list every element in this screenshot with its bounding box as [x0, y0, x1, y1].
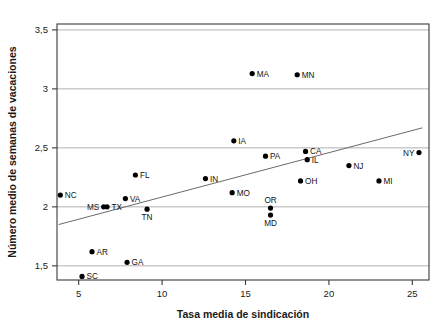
point-label-MI: MI [383, 177, 392, 186]
point-marker-MD [268, 213, 273, 218]
axis-frame-group [57, 24, 429, 280]
point-label-NY: NY [403, 149, 415, 158]
point-label-MS: MS [87, 203, 100, 212]
data-point-OH: OH [298, 177, 317, 186]
xtick-label-15: 15 [240, 288, 251, 299]
point-label-VA: VA [130, 195, 141, 204]
data-points-group: NCMSTXVAFLTNARSCGAINMOIAMAPAORMDMNOHCAIL… [58, 70, 422, 282]
point-marker-NJ [346, 163, 351, 168]
point-marker-NC [58, 192, 63, 197]
data-point-IA: IA [231, 137, 246, 146]
y-axis-title: Número medio de semanas de vacaciones [6, 46, 18, 257]
data-point-AR: AR [89, 248, 108, 257]
data-point-IN: IN [203, 175, 218, 184]
point-marker-OR [268, 205, 273, 210]
chart-canvas: NCMSTXVAFLTNARSCGAINMOIAMAPAORMDMNOHCAIL… [0, 0, 438, 325]
point-marker-MO [230, 190, 235, 195]
point-label-MA: MA [257, 70, 270, 79]
point-marker-MN [295, 72, 300, 77]
point-label-PA: PA [270, 152, 281, 161]
point-label-NC: NC [65, 191, 77, 200]
point-marker-VA [123, 196, 128, 201]
scatter-plot-figure: NCMSTXVAFLTNARSCGAINMOIAMAPAORMDMNOHCAIL… [0, 0, 438, 325]
point-marker-TX [104, 204, 109, 209]
ytick-label-2,5: 2,5 [35, 142, 48, 153]
point-label-MD: MD [264, 219, 277, 228]
xtick-label-20: 20 [324, 288, 335, 299]
point-label-TN: TN [142, 213, 153, 222]
data-point-MN: MN [295, 71, 315, 80]
ytick-label-1,5: 1,5 [35, 260, 48, 271]
point-marker-NY [416, 150, 421, 155]
ytick-label-3: 3 [43, 83, 48, 94]
data-point-NC: NC [58, 191, 77, 200]
xtick-label-10: 10 [157, 288, 168, 299]
x-axis-title: Tasa media de sindicación [177, 308, 309, 320]
point-marker-MI [376, 178, 381, 183]
ytick-label-3,5: 3,5 [35, 24, 48, 35]
data-point-NY: NY [403, 149, 421, 158]
data-point-MI: MI [376, 177, 392, 186]
point-label-GA: GA [132, 258, 144, 267]
gridlines-group [57, 30, 429, 266]
ytick-label-2: 2 [43, 201, 48, 212]
point-marker-TN [144, 207, 149, 212]
xtick-label-25: 25 [407, 288, 418, 299]
data-point-MS: MS [87, 203, 106, 212]
axis-titles-group: Tasa media de sindicaciónNúmero medio de… [6, 46, 309, 320]
data-point-VA: VA [123, 195, 141, 204]
point-label-MO: MO [237, 189, 250, 198]
point-marker-IA [231, 138, 236, 143]
point-label-SC: SC [87, 272, 98, 281]
data-point-IL: IL [305, 156, 319, 165]
point-marker-PA [263, 154, 268, 159]
data-point-MA: MA [250, 70, 270, 79]
point-label-TX: TX [112, 203, 123, 212]
point-marker-FL [133, 172, 138, 177]
point-label-OR: OR [264, 196, 276, 205]
point-label-AR: AR [97, 248, 108, 257]
point-marker-GA [124, 260, 129, 265]
point-label-MN: MN [302, 71, 315, 80]
point-label-FL: FL [140, 171, 150, 180]
data-point-FL: FL [133, 171, 150, 180]
point-marker-SC [79, 274, 84, 279]
data-point-TN: TN [142, 207, 153, 223]
point-label-IA: IA [238, 137, 246, 146]
point-marker-IL [305, 157, 310, 162]
point-label-NJ: NJ [353, 162, 363, 171]
point-marker-MA [250, 71, 255, 76]
point-marker-OH [298, 178, 303, 183]
point-marker-AR [89, 249, 94, 254]
point-label-OH: OH [305, 177, 317, 186]
data-point-OR: OR [264, 196, 276, 211]
point-label-IN: IN [210, 175, 218, 184]
data-point-MD: MD [264, 213, 277, 229]
data-point-NJ: NJ [346, 162, 363, 171]
point-marker-CA [303, 149, 308, 154]
point-label-IL: IL [312, 156, 319, 165]
data-point-MO: MO [230, 189, 250, 198]
xtick-label-5: 5 [76, 288, 81, 299]
data-point-TX: TX [104, 203, 122, 212]
point-marker-IN [203, 176, 208, 181]
plot-frame [57, 24, 429, 280]
data-point-PA: PA [263, 152, 281, 161]
